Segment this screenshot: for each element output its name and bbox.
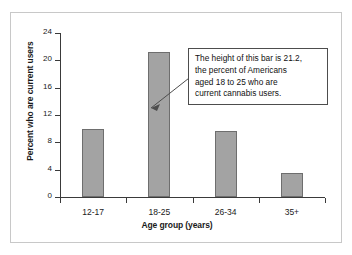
x-tick-label: 12-17 [63,207,123,217]
bar [82,129,104,197]
y-tick: 12 [55,115,60,116]
x-tick-label: 26-34 [196,207,256,217]
y-tick: 20 [55,60,60,61]
y-tick-label: 4 [48,164,52,173]
callout-line-3: aged 18 to 25 who are [195,77,322,89]
y-tick-label: 12 [43,109,52,118]
x-tick [193,198,194,203]
y-tick-label: 0 [48,191,52,200]
y-tick: 24 [55,33,60,34]
y-tick-label: 24 [43,27,52,36]
callout-line-4: current cannabis users. [195,88,322,100]
bar [215,131,237,197]
y-tick: 8 [55,142,60,143]
x-tick-label: 35+ [262,207,322,217]
y-axis-line [60,33,61,198]
x-axis-title: Age group (years) [11,220,343,230]
y-axis-title: Percent who are current users [25,31,35,171]
y-tick-label: 20 [43,54,52,63]
x-tick [60,198,61,203]
x-tick-label: 18-25 [129,207,189,217]
y-tick: 4 [55,170,60,171]
callout-line-1: The height of this bar is 21.2, [195,53,322,65]
chart-figure: Percent who are current users Age group … [10,12,342,243]
y-tick-label: 16 [43,82,52,91]
y-tick-label: 8 [48,136,52,145]
bar [281,173,303,197]
callout-line-2: the percent of Americans [195,65,322,77]
x-tick [259,198,260,203]
callout-annotation: The height of this bar is 21.2, the perc… [188,48,328,105]
x-tick [126,198,127,203]
x-tick [325,198,326,203]
y-tick: 16 [55,88,60,89]
